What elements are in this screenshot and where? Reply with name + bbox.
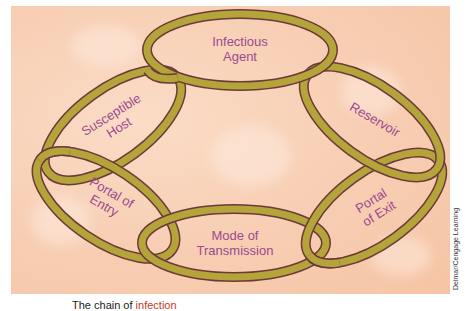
- image-credit: Delmar/Cengage Learning: [452, 208, 459, 290]
- label-infectious-agent: Infectious Agent: [200, 34, 280, 64]
- label-mode-of-transmission: Mode of Transmission: [190, 228, 280, 258]
- figure-caption: The chain of infection: [72, 299, 177, 311]
